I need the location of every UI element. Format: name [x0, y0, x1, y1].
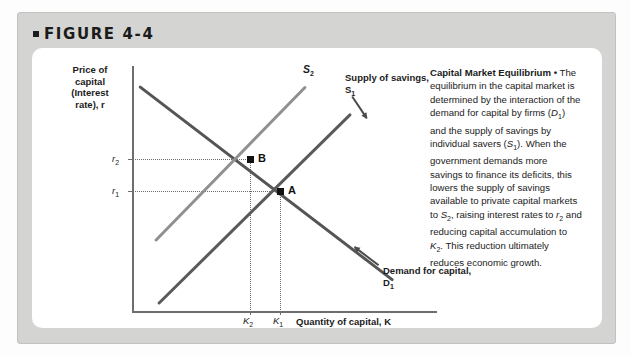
- caption-body-6: . This reduction ultimately reduces econ…: [430, 240, 549, 268]
- supply-curve-s2: [154, 85, 307, 241]
- square-bullet-icon: [33, 31, 39, 37]
- pointer-arrow-d1-icon: [354, 246, 379, 266]
- y-tick-r2: [128, 159, 132, 160]
- curve-label-s1-text: Supply of savings, S: [345, 72, 429, 95]
- y-tick-r1: [128, 191, 132, 192]
- curve-label-d1-sub: 1: [390, 282, 394, 289]
- caption-body-3: ). When the government demands more savi…: [430, 138, 577, 220]
- figure-root: FIGURE 4-4 Price of capital (Interest ra…: [0, 0, 631, 357]
- y-tick-label-r2: r2: [112, 153, 119, 166]
- figure-card: Price of capital (Interest rate), r Quan…: [32, 48, 602, 328]
- guide-line-k2: [250, 159, 251, 312]
- y-tick-label-r1: r1: [112, 185, 119, 198]
- caption-heading-separator: •: [554, 67, 557, 78]
- curve-label-s2-text: S: [303, 63, 310, 75]
- equilibrium-point-b-label: B: [258, 152, 266, 164]
- figure-caption: Capital Market Equilibrium • The equilib…: [430, 66, 582, 269]
- y-axis-label: Price of capital (Interest rate), r: [52, 64, 128, 110]
- pointer-arrow-s1-icon: [351, 96, 367, 119]
- equilibrium-point-b: [247, 156, 254, 163]
- y-axis-label-line-4: rate), r: [75, 99, 105, 110]
- curve-label-s2: S2: [303, 63, 314, 77]
- y-axis-label-line-3: (Interest: [71, 87, 108, 98]
- y-axis: [132, 66, 134, 313]
- caption-heading: Capital Market Equilibrium: [430, 67, 551, 78]
- y-axis-label-line-2: capital: [75, 76, 105, 87]
- guide-line-k1: [280, 191, 281, 312]
- caption-symbol-d1: D: [551, 107, 558, 118]
- x-tick-label-k1: K1: [273, 315, 283, 328]
- curve-label-s2-sub: 2: [310, 70, 314, 77]
- guide-line-r1: [133, 191, 280, 192]
- y-axis-label-line-1: Price of: [73, 64, 108, 75]
- x-axis: [132, 311, 437, 313]
- x-axis-label: Quantity of capital, K: [296, 316, 391, 327]
- curve-label-s1: Supply of savings, S1: [345, 72, 435, 99]
- equilibrium-point-a: [277, 188, 284, 195]
- x-tick-label-k2: K2: [243, 315, 253, 328]
- chart-plot-area: Price of capital (Interest rate), r Quan…: [100, 58, 430, 320]
- caption-body-4: , raising interest rates to: [451, 209, 556, 220]
- equilibrium-point-a-label: A: [288, 184, 296, 196]
- figure-title: FIGURE 4-4: [44, 25, 154, 43]
